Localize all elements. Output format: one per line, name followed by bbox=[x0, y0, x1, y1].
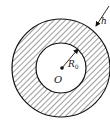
diagram-svg: O R0 h bbox=[0, 0, 110, 130]
annulus-diagram: O R0 h bbox=[0, 0, 110, 130]
center-label: O bbox=[54, 74, 62, 85]
thickness-label: h bbox=[101, 16, 107, 26]
